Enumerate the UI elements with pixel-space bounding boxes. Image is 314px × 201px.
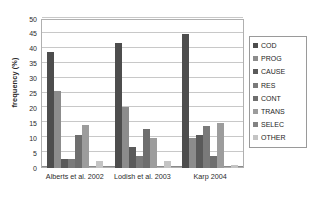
legend-item-label: OTHER [261, 134, 286, 141]
legend-swatch-icon [253, 69, 258, 74]
bar [182, 34, 189, 168]
legend-swatch-icon [253, 56, 258, 61]
legend-item-label: CAUSE [261, 68, 285, 75]
bar-group [182, 19, 238, 168]
bar [61, 159, 68, 168]
bar-group [115, 19, 171, 168]
bar [75, 135, 82, 168]
x-tick-label: Alberts et al. 2002 [41, 172, 109, 181]
bar [115, 43, 122, 168]
legend-item[interactable]: RES [253, 79, 304, 92]
bar [231, 165, 238, 168]
bar-chart: frequency (%) 05101520253035404550 Alber… [0, 0, 314, 201]
legend-swatch-icon [253, 109, 258, 114]
bar [196, 135, 203, 168]
y-tick-label: 0 [11, 165, 37, 172]
bar-group [47, 19, 103, 168]
legend-item[interactable]: SELEC [253, 118, 304, 131]
legend-item[interactable]: CAUSE [253, 65, 304, 78]
bar [150, 138, 157, 168]
bar [47, 52, 54, 168]
legend-item[interactable]: PROG [253, 52, 304, 65]
bar [82, 125, 89, 168]
bars-layer [41, 19, 244, 168]
y-tick-label: 10 [11, 135, 37, 142]
x-tick-label: Karp 2004 [176, 172, 244, 181]
bar [136, 156, 143, 168]
legend-swatch-icon [253, 43, 258, 48]
bar [203, 126, 210, 168]
bar [96, 161, 103, 168]
bar [54, 91, 61, 168]
legend-item-label: RES [261, 82, 275, 89]
legend-item[interactable]: TRANS [253, 105, 304, 118]
legend-item[interactable]: COD [253, 39, 304, 52]
y-tick-label: 50 [11, 16, 37, 23]
gridline [42, 17, 243, 18]
y-axis-title: frequency (%) [10, 43, 19, 123]
y-tick-label: 45 [11, 30, 37, 37]
legend-item[interactable]: OTHER [253, 131, 304, 144]
legend-item-label: TRANS [261, 108, 285, 115]
legend-item[interactable]: CONT [253, 92, 304, 105]
bar [68, 159, 75, 168]
legend-item-label: COD [261, 42, 277, 49]
bar [129, 147, 136, 168]
bar [217, 123, 224, 168]
bar [122, 107, 129, 168]
legend-swatch-icon [253, 83, 258, 88]
x-tick-label: Lodish et al. 2003 [109, 172, 177, 181]
bar [143, 129, 150, 168]
legend: CODPROGCAUSERESCONTTRANSSELECOTHER [249, 36, 307, 148]
bar [210, 156, 217, 168]
legend-item-label: PROG [261, 55, 282, 62]
y-tick-label: 5 [11, 150, 37, 157]
legend-item-label: SELEC [261, 121, 284, 128]
legend-swatch-icon [253, 122, 258, 127]
legend-item-label: CONT [261, 95, 281, 102]
bar [164, 161, 171, 168]
legend-swatch-icon [253, 135, 258, 140]
bar [189, 138, 196, 168]
legend-swatch-icon [253, 96, 258, 101]
